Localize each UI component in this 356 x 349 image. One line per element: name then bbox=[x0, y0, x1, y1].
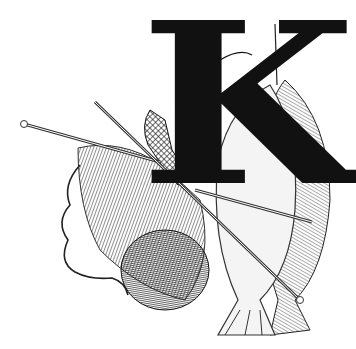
yarn-ball bbox=[121, 230, 209, 310]
illuminated-letter: K bbox=[140, 0, 356, 216]
